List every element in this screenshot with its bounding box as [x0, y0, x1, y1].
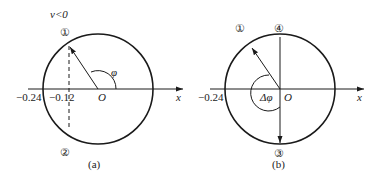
state-label-4b: ④ [274, 22, 284, 34]
figure-a: v<0 ① ② −0.24 −0.12 O x φ (a) [16, 8, 183, 171]
state-label-1b: ① [235, 22, 245, 34]
figure-b: ① ④ ③ −0.24 Δφ O x (b) [198, 22, 364, 171]
rotating-vector-b-initial [252, 48, 280, 89]
tick-label-neg024-b: −0.24 [198, 91, 224, 103]
axis-label-x-b: x [356, 91, 362, 103]
caption-a: (a) [88, 158, 101, 171]
caption-b: (b) [272, 158, 285, 171]
angle-label-delta-phi: Δφ [259, 91, 273, 103]
origin-label-a: O [98, 91, 106, 103]
axis-label-x-a: x [175, 91, 181, 103]
state-label-2a: ② [60, 146, 70, 158]
origin-label-b: O [284, 91, 292, 103]
rotating-vector-a [70, 47, 98, 89]
angle-label-phi: φ [111, 66, 117, 78]
tick-label-neg024-a: −0.24 [16, 91, 42, 103]
velocity-condition: v<0 [50, 8, 68, 20]
tick-label-neg012-a: −0.12 [49, 91, 74, 103]
state-label-1a: ① [60, 26, 70, 38]
